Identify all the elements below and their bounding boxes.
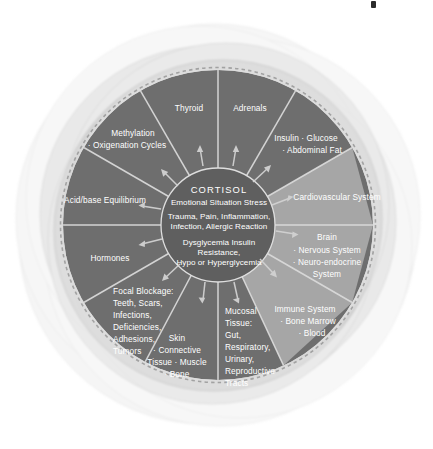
focal-line-2: Teeth, Scars, bbox=[113, 298, 163, 308]
brain-line-3: · Neuro-endocrine bbox=[293, 257, 362, 267]
hormones-label: Hormones bbox=[90, 253, 129, 263]
thyroid-label: Thyroid bbox=[175, 103, 204, 113]
acid-base-label: Acid/base Equilibrium bbox=[64, 195, 146, 205]
mucosal-line-7: Tracts bbox=[225, 378, 248, 388]
label-thyroid: Thyroid bbox=[175, 103, 204, 113]
core-line-2: Trauma, Pain, Inflammation, bbox=[168, 212, 271, 221]
focal-line-3: Infections, bbox=[113, 310, 152, 320]
focal-line-5: Adhesions, bbox=[113, 334, 155, 344]
skin-line-3: Tissue · Muscle bbox=[147, 357, 207, 367]
mucosal-line-5: Urinary, bbox=[225, 354, 254, 364]
insulin-line-2: · Abdominal Fat bbox=[282, 145, 342, 155]
mucosal-line-1: Mucosal bbox=[225, 306, 257, 316]
brain-line-2: · Nervous System bbox=[293, 245, 361, 255]
core-line-5: Resistance, bbox=[198, 248, 241, 257]
focal-line-4: Deficiencies, bbox=[113, 322, 161, 332]
mucosal-line-6: Reproductive bbox=[225, 366, 275, 376]
label-hormones: Hormones bbox=[90, 253, 129, 263]
brain-line-4: System bbox=[313, 269, 341, 279]
skin-line-2: · Connective bbox=[153, 345, 201, 355]
cardiovascular-label: Cardiovascular System bbox=[293, 192, 380, 202]
core-line-6: Hypo or Hyperglycemia bbox=[176, 258, 262, 267]
immune-line-1: Immune System bbox=[274, 304, 335, 314]
methylation-line-2: · Oxigenation Cycles bbox=[88, 140, 167, 150]
focal-line-1: Focal Blockage: bbox=[113, 286, 174, 296]
core-line-1: Emotional Situation Stress bbox=[171, 198, 267, 207]
adrenals-label: Adrenals bbox=[233, 103, 267, 113]
scan-artifact-speck bbox=[371, 1, 376, 8]
label-adrenals: Adrenals bbox=[233, 103, 267, 113]
methylation-line-1: Methylation bbox=[111, 128, 155, 138]
mucosal-line-2: Tissue: bbox=[225, 318, 252, 328]
cortisol-wheel-diagram: Thyroid Adrenals Insulin · Glucose · Abd… bbox=[0, 0, 433, 449]
core-line-4: Dysglycemia Insulin bbox=[183, 238, 255, 247]
core-line-3: Infection, Allergic Reaction bbox=[171, 222, 268, 231]
label-acid-base: Acid/base Equilibrium bbox=[64, 195, 146, 205]
immune-line-2: · Bone Marrow bbox=[280, 316, 337, 326]
mucosal-line-4: Respiratory, bbox=[225, 342, 270, 352]
label-cardiovascular: Cardiovascular System bbox=[293, 192, 380, 202]
focal-line-6: Tumors bbox=[113, 346, 141, 356]
skin-line-1: Skin bbox=[169, 333, 186, 343]
core-title: CORTISOL bbox=[191, 184, 248, 195]
skin-line-4: · Bone bbox=[164, 369, 189, 379]
immune-line-3: · Blood bbox=[299, 328, 326, 338]
insulin-line-1: Insulin · Glucose bbox=[274, 133, 338, 143]
brain-line-1: Brain bbox=[317, 232, 337, 242]
diagram-canvas: Thyroid Adrenals Insulin · Glucose · Abd… bbox=[0, 0, 433, 449]
mucosal-line-3: Gut, bbox=[225, 330, 241, 340]
